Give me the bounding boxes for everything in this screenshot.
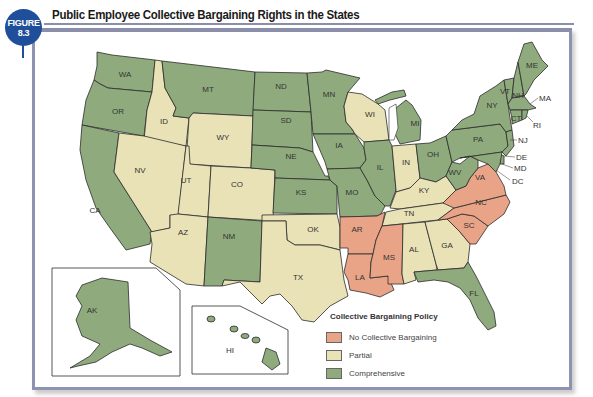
- svg-text:ME: ME: [526, 61, 538, 70]
- svg-text:NJ: NJ: [518, 136, 528, 145]
- svg-text:CA: CA: [89, 206, 101, 215]
- legend-label-none: No Collective Bargaining: [349, 333, 437, 342]
- legend-title: Collective Bargaining Policy: [330, 312, 526, 321]
- svg-text:SD: SD: [280, 116, 291, 125]
- svg-text:NY: NY: [486, 101, 498, 110]
- state-IA[interactable]: [313, 134, 366, 169]
- svg-text:WA: WA: [119, 70, 132, 79]
- svg-text:AZ: AZ: [178, 228, 188, 237]
- svg-text:DE: DE: [516, 153, 527, 162]
- legend: Collective Bargaining Policy No Collecti…: [326, 312, 526, 382]
- svg-text:VT: VT: [500, 87, 510, 96]
- svg-text:MS: MS: [383, 253, 395, 262]
- svg-text:VA: VA: [475, 173, 486, 182]
- svg-text:WV: WV: [449, 168, 463, 177]
- svg-text:HI: HI: [226, 346, 234, 355]
- svg-text:LA: LA: [355, 273, 365, 282]
- legend-swatch-comprehensive: [326, 368, 342, 379]
- svg-text:TX: TX: [293, 273, 304, 282]
- svg-text:WI: WI: [365, 110, 375, 119]
- svg-text:DC: DC: [512, 177, 524, 186]
- svg-text:RI: RI: [533, 121, 541, 130]
- svg-text:OK: OK: [307, 225, 319, 234]
- state-CO[interactable]: [208, 166, 275, 221]
- svg-text:GA: GA: [441, 241, 453, 250]
- svg-text:SC: SC: [463, 221, 474, 230]
- svg-text:FL: FL: [469, 289, 479, 298]
- svg-text:NV: NV: [134, 166, 146, 175]
- legend-swatch-none: [326, 332, 342, 343]
- svg-text:TN: TN: [404, 209, 415, 218]
- legend-item-comprehensive: Comprehensive: [326, 364, 526, 382]
- svg-text:ID: ID: [160, 117, 168, 126]
- svg-text:OH: OH: [427, 150, 439, 159]
- svg-text:OR: OR: [112, 107, 124, 116]
- svg-text:MI: MI: [411, 119, 420, 128]
- state-ND[interactable]: [253, 72, 311, 112]
- legend-label-comprehensive: Comprehensive: [349, 369, 405, 378]
- state-RI[interactable]: [522, 110, 528, 120]
- state-NM[interactable]: [204, 217, 262, 286]
- svg-text:ND: ND: [275, 82, 287, 91]
- svg-text:AK: AK: [87, 306, 98, 315]
- legend-swatch-partial: [326, 350, 342, 361]
- legend-item-partial: Partial: [326, 346, 526, 364]
- svg-text:AL: AL: [409, 245, 419, 254]
- svg-text:WY: WY: [217, 133, 231, 142]
- svg-text:PA: PA: [473, 135, 484, 144]
- svg-text:KS: KS: [296, 188, 307, 197]
- svg-text:NC: NC: [475, 198, 487, 207]
- svg-text:KY: KY: [419, 186, 430, 195]
- svg-text:MN: MN: [323, 90, 336, 99]
- svg-text:MO: MO: [346, 188, 359, 197]
- svg-text:MD: MD: [514, 164, 527, 173]
- svg-text:NM: NM: [223, 232, 236, 241]
- legend-item-none: No Collective Bargaining: [326, 328, 526, 346]
- svg-text:UT: UT: [181, 176, 192, 185]
- svg-text:MA: MA: [539, 94, 552, 103]
- svg-text:IN: IN: [402, 158, 410, 167]
- svg-text:IA: IA: [335, 141, 343, 150]
- svg-text:AR: AR: [351, 225, 362, 234]
- svg-text:MT: MT: [202, 85, 214, 94]
- svg-text:NH: NH: [512, 91, 524, 100]
- svg-text:NE: NE: [285, 152, 296, 161]
- svg-text:CO: CO: [231, 180, 243, 189]
- legend-label-partial: Partial: [349, 351, 372, 360]
- svg-text:CT: CT: [511, 114, 522, 123]
- svg-text:IL: IL: [377, 163, 384, 172]
